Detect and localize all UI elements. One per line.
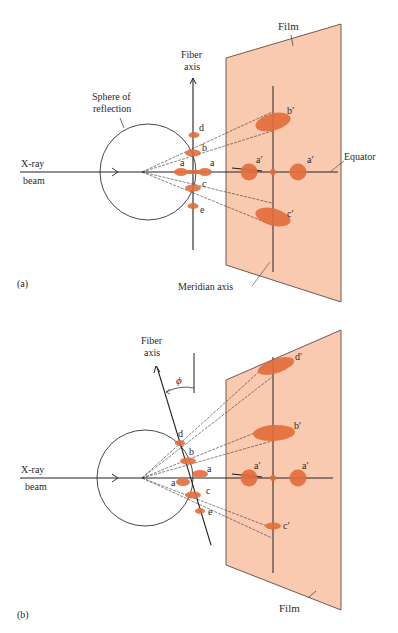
film-spot-label-a-prime-right-a: a′ (307, 154, 314, 165)
film-spot-label-b-prime-b: b′ (294, 420, 301, 431)
film-spot-label-a-prime-left-b: a′ (254, 460, 261, 471)
phi-angle-arc (166, 387, 194, 392)
spot-label-a-left-a: a (180, 157, 185, 168)
spot-label-b-a: b (202, 142, 207, 153)
film-plane-b (226, 330, 341, 610)
panel-tag-b: (b) (17, 609, 29, 621)
xray-label-line2-b: beam (25, 481, 47, 492)
xray-label-line1-a: X-ray (21, 158, 44, 169)
spot-label-c-a: c (202, 178, 207, 189)
panel-a: Film Sphere of reflection X-ray beam Equ… (17, 20, 376, 302)
fiber-axis-label-line1-a: Fiber (181, 49, 203, 60)
sphere-label-line2-a: reflection (93, 103, 131, 114)
spot-label-a-left-b: a (171, 477, 176, 488)
xray-label-line1-b: X-ray (21, 464, 44, 475)
film-plane-a (226, 24, 341, 302)
spot-label-b-b: b (189, 446, 194, 457)
fiber-axis-b (157, 367, 211, 545)
spot-label-e-a: e (200, 204, 205, 215)
spot-label-d-b: d (178, 428, 183, 439)
film-spot-label-a-prime-right-b: a′ (302, 460, 309, 471)
spot-label-d-a: d (199, 122, 204, 133)
phi-label: ϕ (176, 374, 182, 386)
fiber-axis-label-line2-a: axis (184, 61, 200, 72)
film-label-a: Film (278, 20, 299, 32)
spot-label-a-right-a: a (210, 157, 215, 168)
panel-b: Film X-ray beam ϕ Fiber axis (17, 330, 341, 621)
film-spot-label-d-prime-b: d′ (295, 351, 302, 362)
equator-label: Equator (344, 151, 376, 162)
film-spot-label-a-prime-left-a: a′ (256, 154, 263, 165)
xray-label-line2-a: beam (23, 175, 45, 186)
film-spot-label-c-prime-b: c′ (283, 520, 290, 531)
meridian-axis-label: Meridian axis (178, 281, 233, 292)
sphere-label-line1-a: Sphere of (92, 91, 131, 102)
panel-tag-a: (a) (17, 278, 28, 290)
fiber-axis-arrow-icon (154, 366, 160, 373)
spot-label-c-b: c (206, 485, 211, 496)
film-spot-label-b-prime-a: b′ (287, 105, 294, 116)
film-label-b: Film (279, 602, 300, 614)
fiber-axis-label-line2-b: axis (144, 347, 160, 358)
spot-label-a-right-b: a (207, 463, 212, 474)
spot-label-e-b: e (208, 506, 213, 517)
fiber-axis-label-line1-b: Fiber (141, 335, 163, 346)
film-spot-label-c-prime-a: c′ (287, 208, 294, 219)
